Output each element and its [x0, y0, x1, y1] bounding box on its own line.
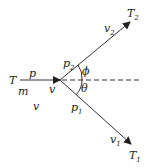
incoming-p-label: p [29, 67, 36, 80]
incoming-T-label: T [9, 74, 18, 87]
T2-label: T2 [127, 7, 139, 22]
p2-label: p2 [63, 57, 75, 72]
v2-label: v2 [104, 22, 115, 37]
vertex-v-label: v [49, 83, 56, 96]
p1-label: p1 [71, 101, 83, 116]
theta-label: θ [81, 82, 88, 95]
mass-label: m [18, 85, 28, 98]
phi-label: ϕ [82, 65, 90, 78]
T1-label: T1 [129, 149, 141, 164]
collision-diagram: T p m v v p2 v2 T2 p1 v1 T1 ϕ θ [0, 0, 144, 168]
v1-label: v1 [110, 133, 121, 148]
incoming-v-label: v [33, 100, 40, 113]
